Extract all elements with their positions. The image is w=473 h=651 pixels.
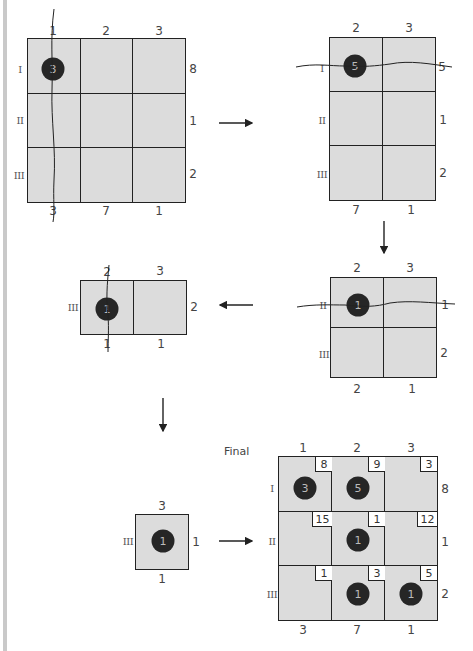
step4-col-label: 2	[103, 266, 111, 278]
cost-box: 1	[368, 512, 385, 527]
step3-row-label: III	[319, 350, 329, 360]
step5-row-label: III	[123, 537, 133, 547]
step1-row-label: III	[14, 171, 24, 181]
step1-row-label: I	[18, 65, 21, 75]
final-allocation-dot: 3	[294, 477, 317, 500]
step1-row-label: II	[17, 116, 24, 126]
step2-demand: 7	[352, 204, 360, 216]
cost-box: 9	[368, 457, 385, 472]
final-demand: 3	[299, 624, 307, 636]
cost-box: 15	[312, 512, 332, 527]
step1-col-label: 1	[49, 25, 57, 37]
step1-supply: 8	[189, 63, 197, 75]
step2-col-label: 2	[352, 22, 360, 34]
final-row-label: III	[267, 590, 277, 600]
cost-box: 8	[315, 457, 332, 472]
page-margin-bar	[3, 0, 7, 651]
step2-demand: 1	[407, 204, 415, 216]
step2-row-label: III	[317, 170, 327, 180]
final-demand: 1	[407, 624, 415, 636]
final-allocation-dot: 1	[400, 583, 423, 606]
step5-col-label: 3	[158, 500, 166, 512]
final-row-label: II	[269, 537, 276, 547]
step3-allocation-dot: 1	[347, 294, 370, 317]
step1-col-label: 2	[102, 25, 110, 37]
step4-allocation-dot: 1	[96, 298, 119, 321]
step4-demand: 1	[157, 338, 165, 350]
final-col-label: 1	[299, 442, 307, 454]
cost-box: 1	[315, 566, 332, 581]
final-supply: 1	[441, 536, 449, 548]
final-row-label: I	[270, 484, 273, 494]
step4-demand: 1	[103, 338, 111, 350]
final-supply: 2	[441, 588, 449, 600]
step5-demand: 1	[158, 573, 166, 585]
step3-grid	[330, 277, 437, 378]
step5-supply: 1	[192, 536, 200, 548]
step2-supply: 1	[439, 114, 447, 126]
step2-supply: 5	[438, 61, 446, 73]
step1-col-label: 3	[155, 25, 163, 37]
step4-row-label: III	[68, 303, 78, 313]
cost-box: 12	[417, 512, 437, 527]
step1-demand: 3	[49, 205, 57, 217]
cost-box: 5	[420, 566, 437, 581]
final-allocation-dot: 1	[347, 529, 370, 552]
step3-col-label: 3	[406, 262, 414, 274]
step2-allocation-dot: 5	[344, 55, 367, 78]
step2-row-label: II	[319, 116, 326, 126]
final-allocation-dot: 5	[347, 477, 370, 500]
step2-supply: 2	[439, 167, 447, 179]
step1-demand: 7	[102, 205, 110, 217]
step1-supply: 2	[189, 168, 197, 180]
step1-supply: 1	[189, 115, 197, 127]
final-title: Final	[224, 445, 249, 458]
step5-allocation-dot: 1	[152, 530, 175, 553]
step3-row-label: II	[320, 301, 327, 311]
step1-demand: 1	[155, 205, 163, 217]
final-col-label: 2	[353, 442, 361, 454]
final-allocation-dot: 1	[347, 583, 370, 606]
step3-demand: 2	[353, 383, 361, 395]
step3-supply: 2	[440, 347, 448, 359]
step3-col-label: 2	[353, 262, 361, 274]
cost-box: 3	[420, 457, 437, 472]
final-supply: 8	[441, 483, 449, 495]
step3-demand: 1	[408, 383, 416, 395]
step4-supply: 2	[190, 301, 198, 313]
step4-col-label: 3	[156, 265, 164, 277]
final-demand: 7	[353, 624, 361, 636]
step1-allocation-dot: 3	[42, 58, 65, 81]
step2-row-label: I	[320, 64, 323, 74]
step2-col-label: 3	[405, 22, 413, 34]
cost-box: 3	[368, 566, 385, 581]
step3-supply: 1	[441, 299, 449, 311]
final-col-label: 3	[407, 442, 415, 454]
